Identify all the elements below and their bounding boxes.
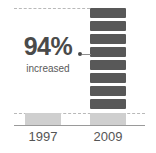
stack-block <box>90 34 126 44</box>
infographic-chart: 94% increased 1997 2009 <box>0 0 156 153</box>
base-bar-2009 <box>90 113 126 125</box>
stack-block <box>90 60 126 70</box>
stack-block <box>90 47 126 57</box>
callout-leader-line <box>82 54 91 55</box>
stack-block <box>90 8 126 18</box>
stack-block <box>90 21 126 31</box>
reference-line-top <box>14 8 90 9</box>
axis-line <box>14 125 145 126</box>
stacked-bar-2009 <box>90 8 126 109</box>
base-bar-1997 <box>25 113 61 125</box>
stack-block <box>90 86 126 96</box>
callout: 94% increased <box>18 34 78 74</box>
callout-sublabel: increased <box>18 64 78 74</box>
stack-block <box>90 99 126 109</box>
axis-label-2009: 2009 <box>83 130 133 143</box>
callout-percent: 94% <box>18 34 78 59</box>
axis-label-1997: 1997 <box>18 130 68 143</box>
stack-block <box>90 73 126 83</box>
